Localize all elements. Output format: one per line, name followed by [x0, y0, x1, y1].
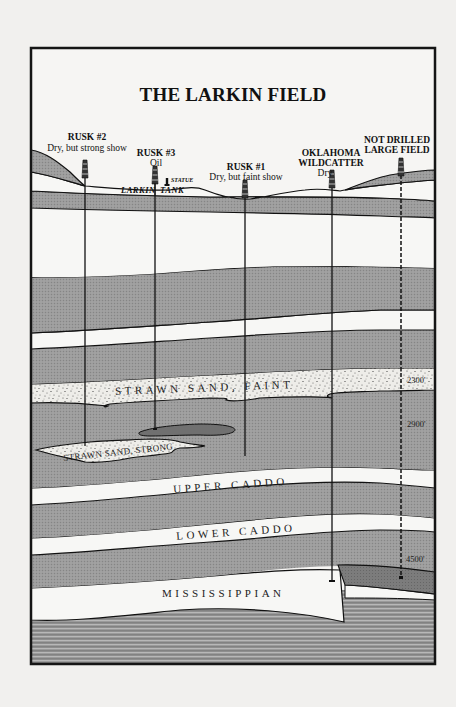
well-label-rusk-3: RUSK #3: [137, 148, 176, 158]
well-bottom-rusk-3: [153, 428, 157, 430]
well-label-oklahoma-1: OKLAHOMA: [302, 148, 361, 158]
derrick-icon: [152, 166, 158, 184]
well-label-oklahoma-2: WILDCATTER: [298, 158, 363, 168]
larkin-field-diagram: THE LARKIN FIELD RUSK #2 Dry, but strong…: [0, 0, 456, 707]
derrick-icon: [242, 180, 248, 198]
diagram-title: THE LARKIN FIELD: [140, 84, 327, 105]
well-status-rusk-3: Oil: [150, 158, 163, 168]
larkin-label: LARKIN: [120, 185, 156, 195]
derrick-icon: [398, 158, 404, 176]
well-label-not-drilled-1: NOT DRILLED: [364, 135, 430, 145]
well-bottom-oklahoma: [329, 580, 335, 582]
well-bottom-not-drilled: [399, 576, 403, 579]
derrick-icon: [82, 160, 88, 178]
well-status-rusk-2: Dry, but strong show: [47, 143, 127, 153]
tank-label: TANK: [160, 185, 185, 195]
depth-label-4500: 4500': [406, 554, 425, 564]
depth-label-2300: 2300': [407, 375, 426, 385]
statue-label: STATUE: [171, 177, 193, 183]
well-status-oklahoma: Dry: [318, 168, 333, 178]
mississippian-label: MISSISSIPPIAN: [162, 587, 285, 599]
well-label-not-drilled-2: LARGE FIELD: [364, 145, 429, 155]
well-label-rusk-2: RUSK #2: [68, 132, 107, 142]
well-status-rusk-1: Dry, but faint show: [209, 172, 282, 182]
well-label-rusk-1: RUSK #1: [227, 162, 266, 172]
depth-label-2900: 2900': [407, 419, 426, 429]
